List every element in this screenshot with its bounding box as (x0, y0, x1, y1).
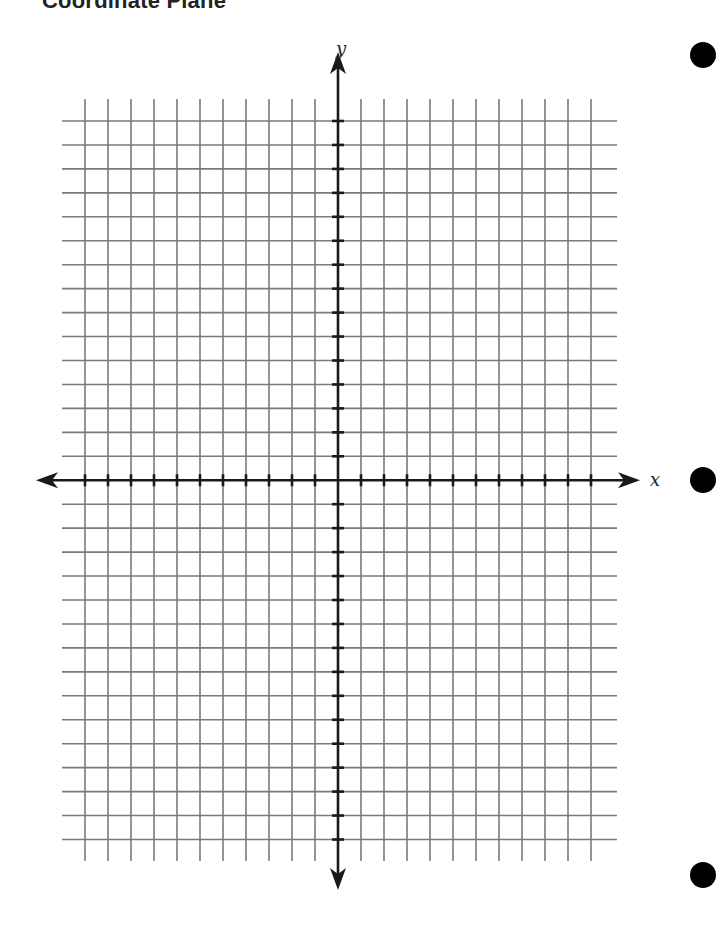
punch-hole-middle (690, 467, 716, 493)
punch-hole-top (690, 42, 716, 68)
axes (36, 52, 640, 890)
y-axis-label: y (336, 38, 346, 59)
x-axis-label: x (650, 469, 660, 490)
punch-hole-bottom (690, 862, 716, 888)
